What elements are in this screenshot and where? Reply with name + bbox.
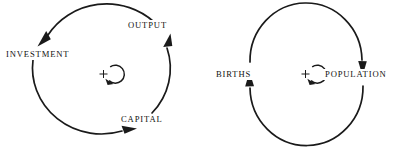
arrowhead-output	[163, 34, 172, 48]
link-arc-investment-to-capital	[32, 60, 122, 134]
polarity-loop-arc-left	[109, 65, 124, 83]
loop-arcs-svg-left	[0, 0, 205, 147]
figure-root: INVESTMENT OUTPUT CAPITAL BIRTHS POPULAT…	[0, 0, 409, 147]
node-label-investment: INVESTMENT	[4, 49, 71, 60]
arrowhead-capital	[122, 126, 138, 134]
node-label-births: BIRTHS	[214, 69, 253, 80]
node-label-population: POPULATION	[323, 69, 389, 80]
polarity-arrowhead-left	[105, 79, 113, 85]
link-arc-capital-to-output	[152, 48, 170, 113]
node-label-output: OUTPUT	[126, 20, 169, 31]
link-arc-births-to-population	[250, 3, 362, 62]
causal-loop-diagram-investment-output-capital: INVESTMENT OUTPUT CAPITAL	[0, 0, 205, 147]
node-label-capital: CAPITAL	[119, 114, 165, 125]
polarity-arrowhead-right	[307, 79, 315, 85]
causal-loop-diagram-births-population: BIRTHS POPULATION	[205, 0, 409, 147]
polarity-marker-left	[100, 65, 125, 85]
link-arc-population-to-births	[250, 86, 363, 146]
